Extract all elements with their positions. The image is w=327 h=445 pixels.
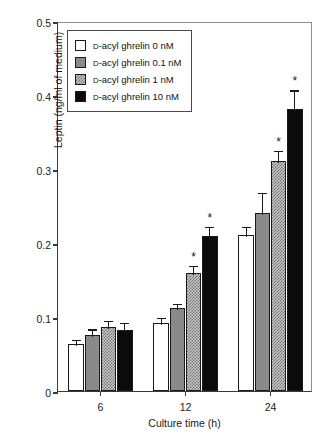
legend-label: D-acyl ghrelin 10 nM bbox=[93, 91, 179, 102]
legend-swatch bbox=[75, 40, 86, 51]
error-bar bbox=[209, 227, 210, 237]
significance-marker: * bbox=[204, 214, 216, 222]
legend-item: D-acyl ghrelin 0 nM bbox=[75, 37, 182, 54]
error-bar-cap bbox=[104, 321, 113, 322]
x-axis-label: Culture time (h) bbox=[58, 417, 311, 429]
error-bar-cap bbox=[72, 340, 81, 341]
bar bbox=[85, 335, 101, 391]
error-bar-cap bbox=[290, 90, 299, 91]
bar bbox=[68, 344, 84, 391]
legend-swatch bbox=[75, 57, 86, 68]
y-tick-label: 0.1 bbox=[36, 311, 51, 327]
legend-item: D-acyl ghrelin 10 nM bbox=[75, 88, 182, 105]
bar bbox=[186, 273, 202, 391]
legend-swatch bbox=[75, 91, 86, 102]
error-bar-cap bbox=[274, 151, 283, 152]
x-tick-label: 6 bbox=[81, 401, 121, 413]
error-bar bbox=[124, 323, 125, 332]
x-tick-mark bbox=[100, 391, 101, 396]
error-bar bbox=[278, 151, 279, 163]
significance-marker: * bbox=[289, 77, 301, 85]
significance-marker: * bbox=[273, 138, 285, 146]
y-axis-label: Leptin (ng/ml of medium) bbox=[52, 0, 64, 148]
error-bar-cap bbox=[120, 323, 129, 324]
y-tick-mark bbox=[53, 392, 58, 393]
bar bbox=[202, 236, 218, 391]
y-tick-label: 0.5 bbox=[36, 15, 51, 31]
legend-label: D-acyl ghrelin 1 nM bbox=[93, 74, 174, 85]
y-tick-label: 0 bbox=[45, 385, 51, 401]
legend-swatch bbox=[75, 74, 86, 85]
error-bar-cap bbox=[242, 227, 251, 228]
bar bbox=[238, 235, 254, 391]
y-tick-mark bbox=[53, 318, 58, 319]
y-tick-mark bbox=[53, 170, 58, 171]
x-tick-label: 24 bbox=[251, 401, 291, 413]
error-bar bbox=[294, 90, 295, 111]
bar bbox=[153, 323, 169, 391]
error-bar bbox=[193, 266, 194, 275]
legend-label: D-acyl ghrelin 0.1 nM bbox=[93, 57, 182, 68]
y-tick-label: 0.2 bbox=[36, 237, 51, 253]
error-bar bbox=[262, 193, 263, 215]
error-bar-cap bbox=[189, 266, 198, 267]
bar bbox=[255, 213, 271, 391]
significance-marker: * bbox=[188, 253, 200, 261]
legend-item: D-acyl ghrelin 0.1 nM bbox=[75, 54, 182, 71]
x-tick-mark bbox=[185, 391, 186, 396]
error-bar-cap bbox=[88, 329, 97, 330]
error-bar-cap bbox=[205, 227, 214, 228]
error-bar-cap bbox=[157, 318, 166, 319]
bar bbox=[117, 330, 133, 391]
x-tick-label: 12 bbox=[166, 401, 206, 413]
error-bar-cap bbox=[258, 193, 267, 194]
bar bbox=[271, 161, 287, 391]
legend: D-acyl ghrelin 0 nMD-acyl ghrelin 0.1 nM… bbox=[67, 30, 192, 112]
legend-item: D-acyl ghrelin 1 nM bbox=[75, 71, 182, 88]
bar bbox=[170, 308, 186, 391]
legend-label: D-acyl ghrelin 0 nM bbox=[93, 40, 174, 51]
figure: 00.10.20.30.40.5 61224 **** Leptin (ng/m… bbox=[0, 0, 327, 445]
bar bbox=[101, 327, 117, 391]
y-tick-label: 0.3 bbox=[36, 163, 51, 179]
error-bar bbox=[246, 227, 247, 237]
error-bar-cap bbox=[173, 304, 182, 305]
bar bbox=[287, 109, 303, 391]
x-tick-mark bbox=[270, 391, 271, 396]
y-tick-mark bbox=[53, 244, 58, 245]
y-tick-label: 0.4 bbox=[36, 89, 51, 105]
